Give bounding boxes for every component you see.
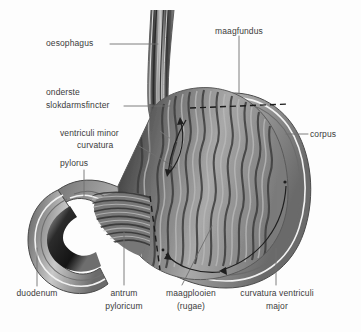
- stomach-anatomy-figure: oesophagus onderste slokdarmsfincter ven…: [0, 0, 361, 332]
- label-slokdarmsfincter: slokdarmsfincter: [46, 100, 109, 111]
- label-maagplooien: maagplooien: [155, 288, 227, 299]
- label-rugae: (rugae): [155, 301, 227, 312]
- label-curvatura-ventriculi: curvatura ventriculi: [228, 288, 326, 299]
- label-maagfundus: maagfundus: [206, 26, 272, 37]
- label-pyloricum: pyloricum: [96, 301, 152, 312]
- antrum-pyloricum: [90, 192, 152, 256]
- label-curvatura: curvatura: [77, 140, 113, 151]
- label-antrum: antrum: [96, 288, 152, 299]
- stomach-illustration: [0, 0, 361, 332]
- label-major: major: [228, 301, 326, 312]
- label-duodenum: duodenum: [5, 288, 69, 299]
- label-corpus: corpus: [310, 129, 336, 140]
- label-onderste: onderste: [46, 87, 80, 98]
- label-pylorus: pylorus: [60, 158, 88, 169]
- label-oesophagus: oesophagus: [46, 38, 93, 49]
- label-ventriculi-minor: ventriculi minor: [60, 128, 119, 139]
